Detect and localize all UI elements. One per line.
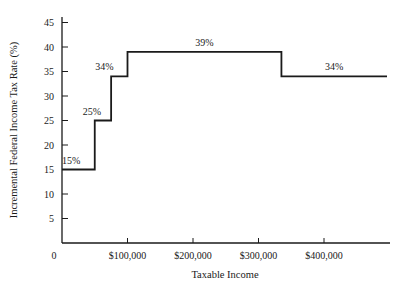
segment-rate-label: 39% bbox=[195, 37, 213, 48]
y-tick-label: 35 bbox=[44, 66, 54, 77]
x-axis-label: Taxable Income bbox=[191, 269, 259, 280]
y-tick-label: 20 bbox=[44, 140, 54, 151]
y-tick-label: 10 bbox=[44, 189, 54, 200]
x-ticks: 0$100,000$200,000$300,000$400,000 bbox=[52, 238, 343, 261]
x-tick-label: $400,000 bbox=[305, 250, 343, 261]
y-ticks: 51015202530354045 bbox=[44, 17, 68, 224]
y-axis-label: Incremental Federal Income Tax Rate (%) bbox=[8, 41, 20, 218]
y-tick-label: 40 bbox=[44, 42, 54, 53]
segment-rate-label: 34% bbox=[325, 61, 343, 72]
x-tick-label: $300,000 bbox=[240, 250, 278, 261]
y-tick-label: 30 bbox=[44, 91, 54, 102]
step-chart: 51015202530354045 0$100,000$200,000$300,… bbox=[0, 0, 407, 296]
y-tick-label: 5 bbox=[49, 213, 54, 224]
segment-rate-label: 15% bbox=[62, 155, 80, 166]
x-tick-label: 0 bbox=[52, 250, 57, 261]
segment-labels: 15%25%34%39%34% bbox=[62, 37, 343, 166]
x-tick-label: $200,000 bbox=[174, 250, 212, 261]
y-tick-label: 15 bbox=[44, 164, 54, 175]
segment-rate-label: 34% bbox=[95, 61, 113, 72]
y-tick-label: 45 bbox=[44, 17, 54, 28]
segment-rate-label: 25% bbox=[83, 106, 101, 117]
y-tick-label: 25 bbox=[44, 115, 54, 126]
x-tick-label: $100,000 bbox=[109, 250, 147, 261]
